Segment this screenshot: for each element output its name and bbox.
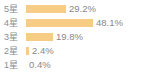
rating-bar-fill-3-star (26, 33, 53, 41)
rating-bar-track-2-star (26, 47, 29, 55)
rating-bar-fill-4-star (26, 19, 93, 27)
table-row: 5星 29.2% (4, 2, 147, 16)
rating-bar-fill-2-star (26, 47, 29, 55)
rating-row-label-4-star: 4星 (4, 16, 26, 30)
rating-percent-1-star: 0.4% (29, 58, 51, 72)
rating-percent-2-star: 2.4% (32, 44, 54, 58)
table-row: 1星 0.4% (4, 58, 147, 72)
rating-row-label-5-star: 5星 (4, 2, 26, 16)
rating-row-label-2-star: 2星 (4, 44, 26, 58)
rating-percent-5-star: 29.2% (69, 2, 96, 16)
rating-percent-3-star: 19.8% (56, 30, 83, 44)
rating-row-label-1-star: 1星 (4, 58, 26, 72)
rating-bar-track-5-star (26, 5, 66, 13)
rating-bar-fill-5-star (26, 5, 66, 13)
star-rating-distribution-chart: 5星 29.2% 4星 48.1% 3星 19.8% 2星 2.4% 1星 0.… (0, 0, 147, 81)
rating-row-label-3-star: 3星 (4, 30, 26, 44)
rating-percent-4-star: 48.1% (96, 16, 123, 30)
table-row: 4星 48.1% (4, 16, 147, 30)
rating-bar-track-3-star (26, 33, 53, 41)
rating-bar-track-4-star (26, 19, 93, 27)
table-row: 3星 19.8% (4, 30, 147, 44)
table-row: 2星 2.4% (4, 44, 147, 58)
